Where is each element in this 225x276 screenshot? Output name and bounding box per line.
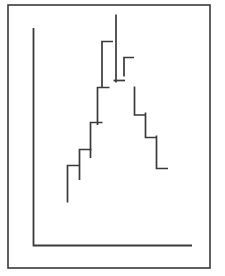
step-segment-11 [157, 136, 169, 169]
chart-canvas [0, 0, 225, 276]
step-segment-10 [146, 113, 158, 138]
figure-container [0, 0, 225, 276]
step-segment-5 [102, 42, 113, 88]
step-segment-3 [91, 123, 103, 159]
step-histogram-outline [68, 15, 169, 203]
step-segment-4 [98, 88, 110, 126]
step-segment-8 [124, 58, 134, 77]
step-segment-1 [68, 166, 80, 203]
step-segment-9 [135, 87, 147, 116]
outer-border [8, 5, 210, 268]
axes-lines [34, 28, 193, 246]
